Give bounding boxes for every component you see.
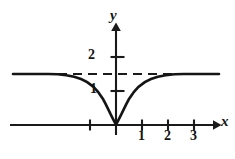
x-tick-label-1: 1	[138, 129, 145, 143]
y-axis-label: y	[110, 8, 117, 23]
cartesian-plot	[0, 0, 235, 159]
x-axis-label: x	[221, 114, 229, 129]
y-tick-label-1: 1	[90, 82, 97, 96]
graph-figure: 2 1 1 2 3 y x	[0, 0, 235, 159]
x-tick-label-2: 2	[164, 129, 171, 143]
y-tick-label-2: 2	[88, 48, 95, 62]
x-tick-label-3: 3	[190, 129, 197, 143]
y-axis-arrow-icon	[111, 23, 121, 32]
